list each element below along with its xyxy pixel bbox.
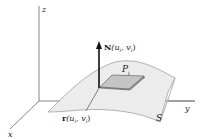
y-axis-label: y [184, 104, 190, 113]
point-label: r(ui, vi) [62, 113, 90, 124]
x-axis-label: x [8, 130, 13, 139]
z-axis-label: z [41, 5, 47, 14]
surface-normal-diagram: z y x N(ui, vi) Pi r(ui, vi) S [0, 0, 207, 139]
x-axis [10, 101, 39, 129]
surface-label: S [156, 113, 162, 123]
normal-vector-label: N(ui, vi) [104, 42, 136, 53]
arrowhead-icon [96, 41, 102, 49]
